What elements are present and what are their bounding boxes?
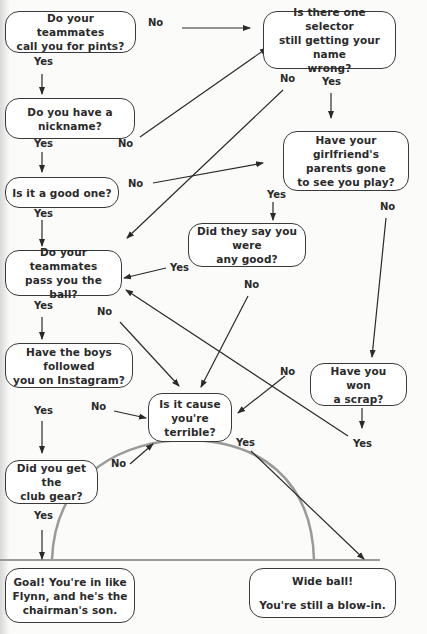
label-good-one-no: No (128, 178, 143, 189)
question-any-good: Did they say you were any good? (188, 223, 306, 267)
label-any-good-yes: Yes (170, 262, 189, 273)
question-won-scrap: Have you won a scrap? (310, 363, 407, 406)
question-club-gear: Did you get the club gear? (5, 460, 98, 504)
label-terrible-yes: Yes (236, 437, 255, 448)
label-pass-yes: Yes (34, 300, 53, 311)
label-scrap-no: No (280, 366, 295, 377)
label-girlfriend-no: No (380, 201, 395, 212)
question-selector-name: Is there one selector still getting your… (263, 11, 396, 69)
outcome-wide-ball: Wide ball! You're still a blow-in. (249, 568, 396, 618)
question-good-one: Is it a good one? (5, 177, 119, 208)
label-gear-no: No (111, 458, 126, 469)
question-girlfriend-parents: Have your girlfriend's parents gone to s… (283, 131, 409, 191)
label-nickname-no: No (118, 138, 133, 149)
label-instagram-yes: Yes (34, 405, 53, 416)
outcome-goal: Goal! You're in like Flynn, and he's the… (5, 568, 135, 623)
question-instagram: Have the boys followed you on Instagram? (5, 343, 133, 388)
flowchart-connectors (0, 0, 427, 634)
label-instagram-no: No (91, 401, 106, 412)
label-nickname-yes: Yes (34, 138, 53, 149)
label-any-good-no: No (244, 279, 259, 290)
label-selector-yes: Yes (322, 76, 341, 87)
label-good-one-yes: Yes (34, 208, 53, 219)
label-selector-no: No (280, 73, 295, 84)
label-pints-no: No (148, 17, 163, 28)
label-girlfriend-yes: Yes (267, 189, 286, 200)
label-scrap-yes: Yes (353, 438, 372, 449)
question-nickname: Do you have a nickname? (5, 98, 135, 139)
question-pass-ball: Do your teammates pass you the ball? (5, 250, 122, 296)
label-gear-yes: Yes (34, 510, 53, 521)
label-pints-yes: Yes (34, 56, 53, 67)
label-pass-no: No (97, 306, 112, 317)
question-terrible: Is it cause you're terrible? (148, 393, 232, 442)
question-teammates-pints: Do your teammates call you for pints? (5, 11, 136, 53)
